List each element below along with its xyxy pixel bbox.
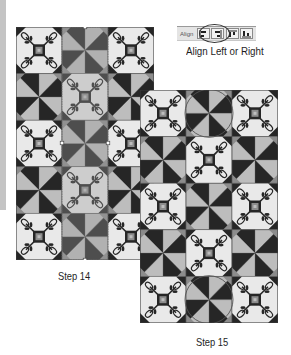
applique-block [16, 213, 62, 260]
applique-block [140, 276, 186, 323]
pinwheel-block [232, 137, 278, 184]
align-toolbar: Align [177, 26, 256, 41]
applique-block [108, 27, 154, 74]
align-top-button[interactable] [226, 28, 239, 39]
pinwheel-block [140, 230, 186, 277]
caption-step-14: Step 14 [58, 270, 90, 282]
pinwheel-block [186, 276, 232, 323]
page-margin-bar [0, 0, 6, 210]
align-label: Align [180, 31, 193, 37]
applique-block [232, 90, 278, 137]
align-left-button[interactable] [197, 28, 210, 39]
align-left-icon [199, 30, 208, 38]
resize-handle[interactable] [106, 141, 110, 145]
resize-handle[interactable] [83, 258, 87, 260]
resize-handle[interactable] [60, 141, 64, 145]
quilt-step-14 [16, 27, 154, 260]
quilt-step-15 [140, 90, 278, 323]
applique-block [186, 230, 232, 277]
pinwheel-block [186, 183, 232, 230]
selection-overlay[interactable] [60, 27, 110, 260]
applique-block [16, 120, 62, 167]
applique-block [16, 27, 62, 74]
resize-handle[interactable] [83, 27, 87, 29]
applique-block [232, 183, 278, 230]
align-bottom-button[interactable] [240, 28, 253, 39]
caption-step-15: Step 15 [196, 336, 228, 348]
pinwheel-block [140, 137, 186, 184]
align-bottom-icon [242, 30, 251, 38]
align-right-icon [213, 30, 222, 38]
caption-align: Align Left or Right [186, 45, 264, 57]
pinwheel-block [232, 230, 278, 277]
pinwheel-block [186, 90, 232, 137]
applique-block [140, 90, 186, 137]
pinwheel-block [16, 74, 62, 121]
applique-block [140, 183, 186, 230]
applique-block [186, 137, 232, 184]
applique-block [232, 276, 278, 323]
pinwheel-block [16, 167, 62, 214]
align-right-button[interactable] [211, 28, 224, 39]
align-top-icon [228, 30, 237, 38]
